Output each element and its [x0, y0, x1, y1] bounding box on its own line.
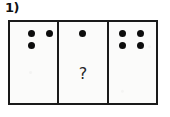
dot-field-panel-2 — [59, 22, 106, 103]
dot — [137, 30, 144, 37]
dot — [28, 30, 35, 37]
question-number-label: 1) — [5, 1, 19, 15]
sequence-panel-1 — [10, 22, 57, 103]
sequence-frame: ? — [8, 20, 158, 105]
dot — [119, 30, 126, 37]
unknown-question-mark: ? — [59, 66, 106, 82]
sequence-panel-3 — [107, 22, 156, 103]
dot — [79, 30, 86, 37]
dot-field-panel-1 — [10, 22, 57, 103]
puzzle-figure: 1) ? — [0, 0, 170, 117]
dot-field-panel-3 — [109, 22, 156, 103]
dot — [28, 42, 35, 49]
dot — [137, 42, 144, 49]
sequence-panel-2: ? — [57, 22, 106, 103]
dot — [119, 42, 126, 49]
dot — [46, 30, 53, 37]
